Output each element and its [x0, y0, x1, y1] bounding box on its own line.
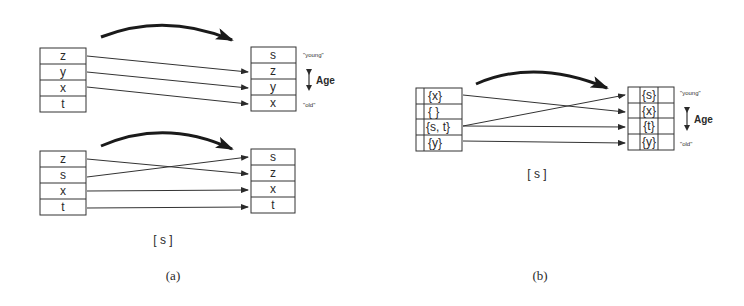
young-label: "young" — [680, 90, 701, 96]
mapping-arrow-icon — [87, 56, 248, 72]
stack-left: {x} { } {s, t} {y} — [416, 88, 462, 151]
stack-cell: {y} — [428, 136, 442, 150]
mapping-arrow-icon — [463, 141, 625, 143]
mapping-arrow-icon — [87, 72, 248, 88]
mapping-arrow-icon — [463, 126, 625, 127]
transition-arrow-icon — [101, 133, 232, 149]
transition-arrow-icon — [101, 25, 232, 40]
stack-cell: t — [61, 97, 65, 111]
panel-a-top: z y x t s z y x "young" Age "old" — [40, 25, 335, 112]
old-label: "old" — [680, 141, 692, 147]
stack-cell: z — [270, 64, 276, 78]
mapping-arrow-icon — [87, 157, 248, 177]
stack-left: z y x t — [40, 48, 86, 112]
stack-cell: s — [60, 168, 66, 182]
stack-cell: x — [60, 184, 66, 198]
mapping-arrow-icon — [463, 95, 625, 112]
panel-b: {x} { } {s, t} {y} {s} {x} {t} {y} "youn… — [416, 72, 713, 283]
mapping-arrow-icon — [87, 87, 248, 104]
stack-cell: z — [60, 152, 66, 166]
transition-arrow-icon — [476, 72, 607, 88]
stack-cell: {x} — [428, 89, 442, 103]
old-label: "old" — [303, 102, 315, 108]
stack-cell: {y} — [642, 135, 656, 149]
age-label: Age — [316, 75, 335, 86]
stack-cell: t — [271, 198, 275, 212]
age-label: Age — [694, 114, 713, 125]
stack-cell: {s, t} — [426, 120, 450, 134]
stack-cell: z — [270, 166, 276, 180]
stack-cell: {s} — [642, 88, 656, 102]
panel-a-bottom: z s x t s z x t [ s ] (a) — [40, 133, 295, 283]
stack-right: s z x t — [251, 149, 295, 213]
diagram-canvas: z y x t s z y x "young" Age "old" — [0, 0, 744, 306]
mapping-arrow-icon — [463, 95, 625, 126]
panel-a-caption: [ s ] — [153, 233, 172, 247]
stack-cell: s — [270, 150, 276, 164]
stack-cell: x — [60, 81, 66, 95]
stack-cell: {t} — [643, 119, 654, 133]
stack-cell: x — [270, 96, 276, 110]
stack-cell: y — [270, 80, 276, 94]
stack-cell: y — [60, 65, 66, 79]
stack-cell: t — [61, 200, 65, 214]
panel-b-caption: [ s ] — [527, 167, 546, 181]
panel-b-label: (b) — [532, 268, 547, 283]
stack-right: {s} {x} {t} {y} — [628, 87, 674, 150]
stack-cell: x — [270, 182, 276, 196]
young-label: "young" — [303, 52, 324, 58]
mapping-arrow-icon — [87, 190, 248, 191]
panel-a-label: (a) — [166, 268, 180, 283]
mapping-arrow-icon — [87, 207, 248, 208]
stack-cell: {x} — [642, 104, 656, 118]
stack-cell: z — [60, 49, 66, 63]
stack-left: z s x t — [40, 151, 86, 215]
stack-cell: s — [270, 48, 276, 62]
stack-right: s z y x — [251, 47, 296, 111]
stack-cell: { } — [428, 105, 439, 119]
